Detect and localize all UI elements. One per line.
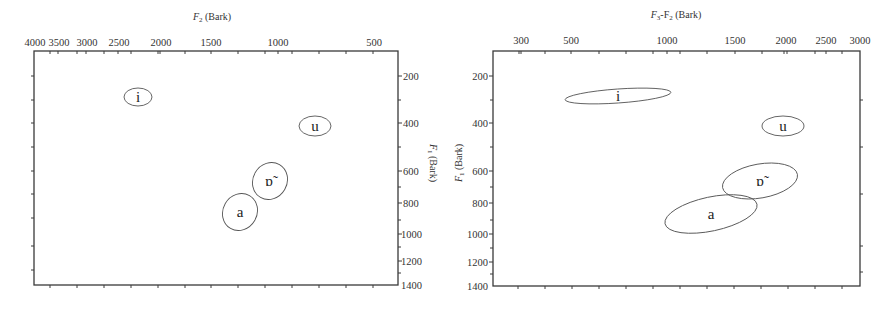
left-y-axis-title: F1 (Bark) (426, 143, 439, 182)
svg-text:1500: 1500 (725, 35, 746, 46)
left-y-tick-labels: 200 400 600 800 1000 1200 1400 (401, 71, 422, 291)
left-chart: F2 (Bark) 4000 3500 3000 2500 2000 1500 … (25, 11, 440, 291)
svg-text:1000: 1000 (657, 35, 678, 46)
right-vowel-nasal-o: ɒ̃ (720, 158, 801, 205)
right-vowel-u: u (762, 116, 804, 136)
right-x-tick-labels: 300 500 1000 1500 2000 2500 3000 (513, 35, 870, 46)
svg-text:500: 500 (563, 35, 579, 46)
svg-text:400: 400 (403, 118, 419, 129)
left-plot-frame (34, 51, 398, 285)
svg-text:3000: 3000 (850, 35, 871, 46)
svg-text:600: 600 (472, 166, 488, 177)
svg-text:1500: 1500 (201, 37, 222, 48)
svg-text:a: a (708, 206, 715, 222)
svg-text:ɒ̃: ɒ̃ (756, 173, 769, 189)
svg-text:i: i (136, 89, 140, 105)
svg-text:500: 500 (366, 37, 382, 48)
svg-text:1000: 1000 (268, 37, 289, 48)
svg-text:800: 800 (403, 198, 419, 209)
svg-text:3000: 3000 (77, 37, 98, 48)
right-y-tick-labels: 200 400 600 800 1000 1200 1400 (467, 71, 488, 292)
svg-text:ɒ̃: ɒ̃ (265, 173, 278, 189)
svg-text:200: 200 (403, 71, 419, 82)
svg-text:u: u (779, 118, 787, 134)
svg-text:1000: 1000 (401, 229, 422, 240)
figure: F2 (Bark) 4000 3500 3000 2500 2000 1500 … (0, 0, 887, 315)
left-x-axis-title: F2 (Bark) (192, 11, 231, 24)
svg-text:2500: 2500 (109, 37, 130, 48)
svg-text:1000: 1000 (467, 229, 488, 240)
svg-text:2500: 2500 (816, 35, 837, 46)
right-vowel-a: a (661, 188, 760, 241)
right-y-axis-title: F1 (Bark) (453, 144, 466, 183)
left-vowel-u: u (299, 116, 331, 136)
svg-text:1200: 1200 (401, 256, 422, 267)
svg-text:2000: 2000 (776, 35, 797, 46)
svg-text:1400: 1400 (467, 281, 488, 292)
svg-text:1200: 1200 (467, 257, 488, 268)
svg-text:a: a (237, 204, 244, 220)
right-chart: F3-F2 (Bark) 300 500 1000 1500 2000 2500… (453, 9, 871, 292)
right-plot-frame (493, 51, 860, 286)
right-x-axis-title: F3-F2 (Bark) (650, 9, 702, 22)
svg-text:600: 600 (403, 166, 419, 177)
svg-text:800: 800 (472, 198, 488, 209)
svg-text:i: i (616, 88, 620, 104)
svg-text:u: u (311, 118, 319, 134)
svg-text:300: 300 (513, 35, 529, 46)
left-x-tick-labels: 4000 3500 3000 2500 2000 1500 1000 500 (25, 37, 382, 48)
right-vowel-i: i (565, 85, 672, 106)
svg-text:2000: 2000 (151, 37, 172, 48)
svg-text:4000: 4000 (25, 37, 46, 48)
svg-text:400: 400 (472, 118, 488, 129)
svg-text:3500: 3500 (49, 37, 70, 48)
left-vowel-i: i (124, 88, 152, 106)
svg-text:1400: 1400 (401, 280, 422, 291)
svg-text:200: 200 (472, 71, 488, 82)
